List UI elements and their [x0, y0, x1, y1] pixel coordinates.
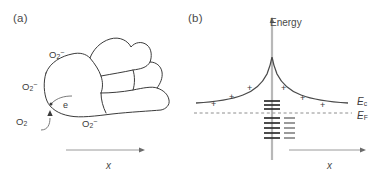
band-subscript: c	[364, 100, 367, 107]
fermi-level-label: EF	[357, 110, 368, 121]
surface-states-secondary-group	[284, 118, 295, 138]
donor-charge-plus: +	[300, 94, 305, 103]
conduction-band-label: Ec	[357, 96, 367, 107]
panel-b-drawing	[0, 0, 383, 181]
energy-axis-label: Energy	[270, 17, 302, 28]
donor-charge-plus: +	[320, 101, 325, 110]
band-symbol: E	[357, 96, 364, 107]
donor-charge-plus: +	[211, 100, 216, 109]
x-axis-label-b: x	[327, 160, 332, 171]
donor-charge-plus: +	[247, 84, 252, 93]
donor-charge-plus: +	[229, 93, 234, 102]
band-symbol: E	[357, 110, 364, 121]
figure-container: (a) O2− O2− O2−	[0, 0, 383, 181]
x-axis-arrowhead-b	[360, 147, 366, 152]
donor-charge-plus: +	[281, 84, 286, 93]
band-subscript: F	[364, 114, 368, 121]
